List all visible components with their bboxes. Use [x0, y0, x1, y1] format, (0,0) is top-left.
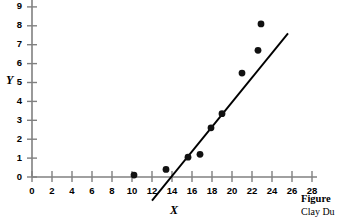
data-point: [255, 47, 262, 54]
y-tick-label: 2: [17, 133, 22, 144]
x-tick-label: 2: [49, 185, 54, 196]
x-tick-label: 8: [109, 185, 114, 196]
x-tick-label: 6: [89, 185, 94, 196]
x-tick-label: 0: [29, 185, 34, 196]
data-point: [258, 21, 265, 28]
y-tick-label: 7: [17, 38, 22, 49]
data-point: [163, 166, 170, 173]
y-axis-title: Y: [6, 73, 15, 87]
y-tick-label: 6: [17, 57, 22, 68]
x-tick-label: 24: [267, 185, 278, 196]
y-tick-label: 9: [17, 0, 22, 11]
figure-caption-credit: Clay Du: [301, 206, 345, 219]
data-point: [208, 124, 215, 131]
x-tick-label: 26: [287, 185, 298, 196]
data-point: [219, 110, 226, 117]
figure-caption-label: Figure: [301, 192, 345, 205]
data-point: [185, 154, 192, 161]
data-point: [131, 172, 138, 179]
y-axis-ticks: 0123456789: [17, 0, 37, 181]
regression-line: [152, 33, 288, 200]
x-tick-label: 4: [69, 185, 75, 196]
x-tick-label: 20: [227, 185, 238, 196]
x-tick-label: 22: [247, 185, 258, 196]
x-tick-label: 14: [167, 185, 178, 196]
data-point: [239, 70, 246, 77]
x-axis-title: X: [169, 203, 179, 217]
scatter-plot-figure: 0123456789 0246810121416182022242628 Y X…: [0, 0, 347, 220]
scatter-plot-canvas: 0123456789 0246810121416182022242628 Y X: [0, 0, 347, 220]
y-tick-label: 5: [17, 76, 23, 87]
x-tick-label: 10: [127, 185, 138, 196]
figure-caption: Figure Clay Du: [301, 192, 345, 218]
x-tick-label: 12: [147, 185, 158, 196]
y-tick-label: 4: [17, 95, 23, 106]
x-tick-label: 16: [187, 185, 198, 196]
y-tick-label: 3: [17, 114, 22, 125]
y-tick-label: 8: [17, 19, 22, 30]
y-tick-label: 0: [17, 171, 22, 182]
x-tick-label: 18: [207, 185, 218, 196]
data-points-group: [131, 21, 265, 179]
y-tick-label: 1: [17, 152, 23, 163]
data-point: [197, 151, 204, 158]
